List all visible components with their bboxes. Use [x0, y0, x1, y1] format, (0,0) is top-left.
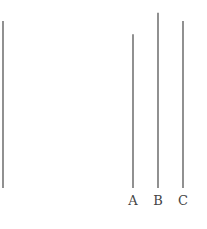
line-comparison-diagram: A B C — [0, 0, 207, 229]
label-a: A — [127, 193, 138, 208]
label-c: C — [178, 193, 188, 208]
label-b: B — [153, 193, 163, 208]
